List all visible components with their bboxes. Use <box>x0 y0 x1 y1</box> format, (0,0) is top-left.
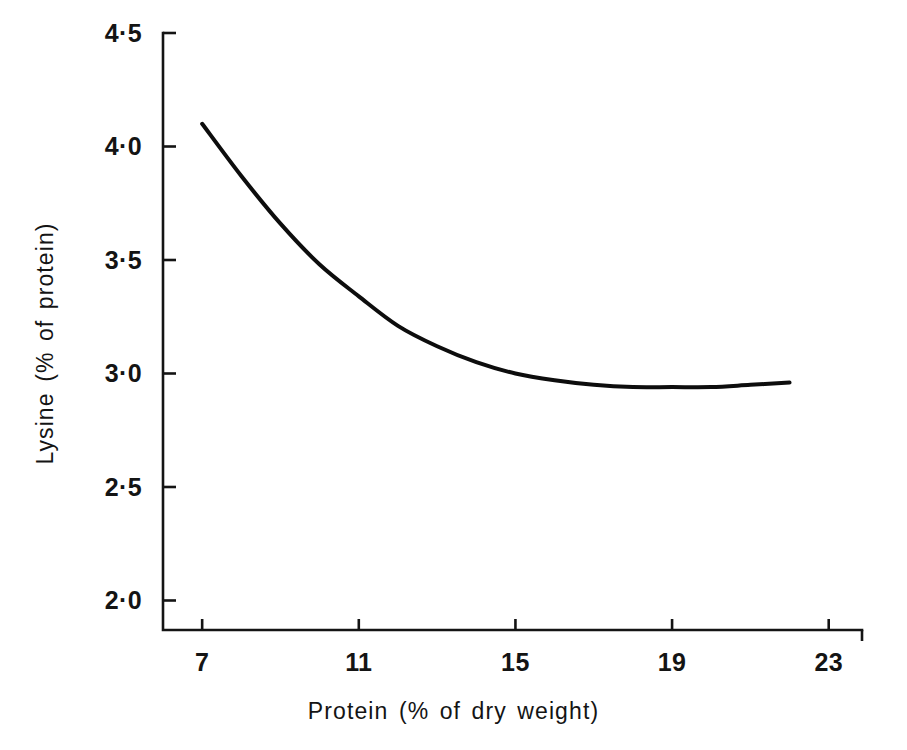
x-tick-label-7: 7 <box>195 648 209 677</box>
y-axis-title: Lysine (% of protein) <box>32 164 59 524</box>
axis-layer <box>163 33 862 630</box>
x-tick-label-15: 15 <box>501 648 530 677</box>
x-tick-label-11: 11 <box>345 648 372 677</box>
y-tick-label-4·5: 4·5 <box>40 19 142 48</box>
axis-spines <box>163 33 862 630</box>
chart-figure: 2·02·53·03·54·04·5 711151923 Lysine (% o… <box>0 0 907 750</box>
y-tick-label-4·0: 4·0 <box>40 132 142 161</box>
data-series-layer <box>202 124 789 387</box>
x-tick-label-19: 19 <box>658 648 687 677</box>
data-line-0 <box>202 124 789 387</box>
y-tick-label-2·0: 2·0 <box>40 586 142 615</box>
x-axis-title: Protein (% of dry weight) <box>0 698 907 725</box>
tick-marks-layer <box>163 33 862 641</box>
x-tick-label-23: 23 <box>814 648 843 677</box>
